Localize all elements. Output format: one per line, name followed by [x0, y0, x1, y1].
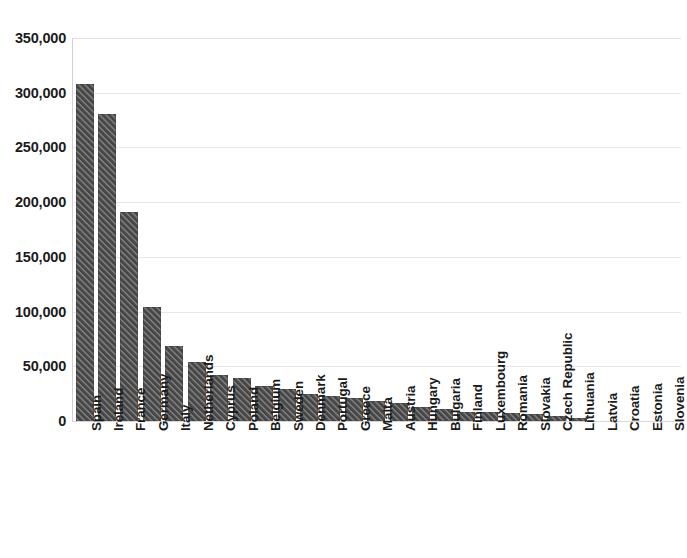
x-axis-tick-label: Portugal [322, 427, 340, 440]
x-axis-tick-label: Bulgaria [435, 427, 453, 440]
bar-chart: 050,000100,000150,000200,000250,000300,0… [0, 0, 687, 558]
x-axis-tick-label: Luxembourg [480, 427, 498, 440]
x-axis-tick-label: Denmark [300, 427, 318, 440]
x-axis-tick-label: Austria [390, 427, 408, 440]
x-axis-tick-label: Germany [143, 427, 161, 440]
x-axis-tick-label: Netherlands [188, 427, 206, 440]
x-axis-tick-label: Czech Republic [547, 427, 565, 440]
x-axis-tick-label: Finland [457, 427, 475, 440]
x-axis-tick-label: Greece [345, 427, 363, 440]
x-axis-tick-label: Slovakia [525, 427, 543, 440]
x-axis-tick-label: France [120, 427, 138, 440]
x-axis-tick-label: Lithuania [569, 427, 587, 440]
x-axis-tick-label: Hungary [412, 427, 430, 440]
x-axis-tick-label: Romania [502, 427, 520, 440]
x-axis-tick-label: Spain [76, 427, 94, 440]
x-axis-tick-label: Belgium [255, 427, 273, 440]
x-axis-tick-label: Malta [367, 427, 385, 440]
x-axis-tick-label: Poland [233, 427, 251, 440]
x-axis-tick-label: Italy [165, 427, 183, 440]
x-axis-tick-labels: SpainIrelandFranceGermanyItalyNetherland… [0, 0, 687, 558]
x-axis-tick-label: Latvia [592, 427, 610, 440]
x-axis-tick-label: Cyprus [210, 427, 228, 440]
x-axis-tick-label: Sweden [278, 427, 296, 440]
x-axis-tick-label: Ireland [98, 427, 116, 440]
x-axis-tick-label: Slovenia [659, 427, 677, 440]
x-axis-tick-label: Estonia [637, 427, 655, 440]
x-axis-tick-label: Croatia [614, 427, 632, 440]
